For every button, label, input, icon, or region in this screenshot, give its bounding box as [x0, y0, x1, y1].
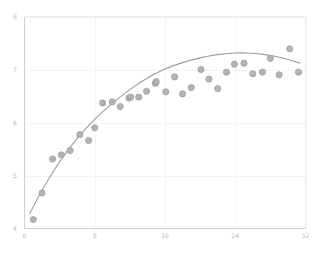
- data-point: [188, 84, 194, 90]
- data-point: [215, 85, 221, 91]
- y-axis-tick-label: 6: [13, 119, 17, 126]
- x-axis-tick-label: 32: [302, 232, 310, 239]
- x-axis-tick-label: 8: [93, 232, 97, 239]
- y-axis-tick-label: 7: [13, 66, 17, 73]
- data-point: [58, 152, 64, 158]
- data-point: [198, 66, 204, 72]
- y-axis-tick-label: 4: [13, 225, 17, 232]
- chart-container: 4567808162432: [0, 0, 324, 259]
- data-point: [223, 69, 229, 75]
- data-point: [259, 69, 265, 75]
- scatter-plot: 4567808162432: [0, 0, 324, 259]
- data-point: [287, 46, 293, 52]
- data-point: [136, 94, 142, 100]
- data-point: [30, 216, 36, 222]
- data-point: [143, 88, 149, 94]
- data-point: [109, 99, 115, 105]
- x-axis-tick-label: 24: [231, 232, 239, 239]
- y-axis-tick-label: 8: [13, 13, 17, 20]
- data-point: [128, 94, 134, 100]
- data-point: [50, 156, 56, 162]
- data-point: [92, 125, 98, 131]
- data-point: [172, 74, 178, 80]
- data-point: [77, 132, 83, 138]
- data-point: [67, 147, 73, 153]
- data-point: [206, 76, 212, 82]
- data-point: [86, 137, 92, 143]
- data-point: [153, 79, 159, 85]
- data-point: [117, 104, 123, 110]
- data-point: [276, 72, 282, 78]
- data-point: [39, 190, 45, 196]
- data-point: [231, 61, 237, 67]
- data-point: [250, 71, 256, 77]
- data-point: [100, 100, 106, 106]
- x-axis-tick-label: 0: [23, 232, 27, 239]
- data-point: [267, 55, 273, 61]
- data-point: [179, 91, 185, 97]
- data-point: [295, 69, 301, 75]
- x-axis-tick-label: 16: [161, 232, 169, 239]
- y-axis-tick-label: 5: [13, 172, 17, 179]
- data-point: [163, 89, 169, 95]
- data-point: [241, 60, 247, 66]
- plot-background: [24, 16, 305, 229]
